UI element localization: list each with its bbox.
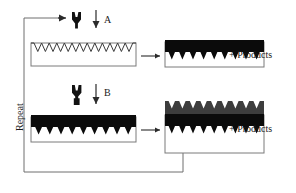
diagram-canvas: A B + Products + Products Repeat [0,0,296,193]
diagram-vector-layer [0,0,296,193]
monomer-molecule-icon [72,85,81,105]
empty-sawtooth-substrate [31,43,136,66]
step-label-a: A [104,15,111,25]
products-label-b: + Products [229,124,272,134]
step-label-b: B [104,88,111,98]
products-label-a: + Products [229,50,272,60]
filled-substrate-b-input [31,115,136,142]
repeat-loop-label: Repeat [15,103,25,131]
template-molecule-icon [72,12,81,29]
